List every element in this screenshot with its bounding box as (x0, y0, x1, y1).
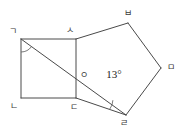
vertex-label-r: ㄹ (120, 118, 128, 128)
angle-13-degrees-label: 13° (106, 68, 121, 80)
vertex-label-s: ㅅ (66, 25, 74, 35)
vertex-label-m: ㅁ (167, 62, 175, 72)
vertex-label-o: ㅇ (80, 70, 88, 80)
vertex-label-b: ㅂ (124, 8, 132, 18)
vertex-label-n: ㄴ (10, 101, 18, 111)
edge-m-r (126, 68, 161, 115)
geometry-diagram: ㄱ ㄴ ㄷ ㅅ ㅂ ㅁ ㄹ ㅇ 13° (0, 0, 188, 135)
edge-s-b (76, 23, 128, 39)
edge-r-d (76, 98, 126, 115)
vertex-label-d: ㄷ (70, 102, 78, 112)
geometry-figure-container: ㄱ ㄴ ㄷ ㅅ ㅂ ㅁ ㄹ ㅇ 13° (0, 0, 188, 135)
angle-arc-at-g (21, 47, 32, 52)
vertex-label-g: ㄱ (9, 26, 17, 36)
edge-b-m (128, 23, 161, 68)
